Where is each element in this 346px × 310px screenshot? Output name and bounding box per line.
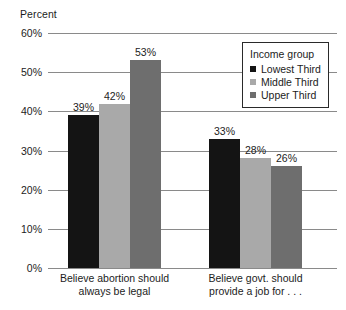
legend-title: Income group	[250, 48, 321, 60]
x-axis-category-line: Believe abortion should	[40, 272, 190, 285]
y-axis-tick-label: 40%	[21, 105, 42, 117]
bar-value-label: 26%	[276, 152, 297, 164]
legend-item-label: Lowest Third	[261, 63, 321, 75]
legend-swatch-icon	[250, 79, 256, 85]
x-axis-category-line: always be legal	[40, 285, 190, 298]
bar: 39%	[68, 115, 99, 268]
x-axis-category-label: Believe govt. shouldprovide a job for . …	[181, 272, 331, 298]
y-axis-tick-label: 10%	[21, 223, 42, 235]
bar: 26%	[271, 166, 302, 268]
legend-item: Lowest Third	[250, 63, 321, 75]
gridline: 60%	[48, 33, 337, 34]
legend-items: Lowest ThirdMiddle ThirdUpper Third	[250, 63, 321, 101]
bar: 33%	[209, 139, 240, 268]
bar-value-label: 42%	[104, 90, 125, 102]
legend-item: Upper Third	[250, 89, 321, 101]
x-axis-category-line: provide a job for . . .	[181, 285, 331, 298]
legend-item: Middle Third	[250, 76, 321, 88]
legend-item-label: Upper Third	[261, 89, 316, 101]
legend: Income group Lowest ThirdMiddle ThirdUpp…	[242, 42, 329, 108]
y-axis-tick-label: 60%	[21, 27, 42, 39]
y-axis-title: Percent	[20, 8, 57, 20]
bar-value-label: 39%	[73, 101, 94, 113]
bar-value-label: 33%	[214, 125, 235, 137]
bar-value-label: 28%	[245, 144, 266, 156]
legend-item-label: Middle Third	[261, 76, 319, 88]
bar: 28%	[240, 158, 271, 268]
bar: 42%	[99, 104, 130, 269]
y-axis-tick-label: 50%	[21, 66, 42, 78]
y-axis-tick-label: 20%	[21, 184, 42, 196]
legend-swatch-icon	[250, 92, 256, 98]
legend-swatch-icon	[250, 66, 256, 72]
bar-value-label: 53%	[135, 46, 156, 58]
x-axis-category-line: Believe govt. should	[181, 272, 331, 285]
x-axis-category-label: Believe abortion shouldalways be legal	[40, 272, 190, 298]
bar: 53%	[130, 60, 161, 268]
y-axis-tick-label: 30%	[21, 145, 42, 157]
bar-chart: Percent 0%10%20%30%40%50%60% 39%42%53%33…	[0, 0, 346, 310]
axis-baseline: 0%	[48, 268, 337, 269]
